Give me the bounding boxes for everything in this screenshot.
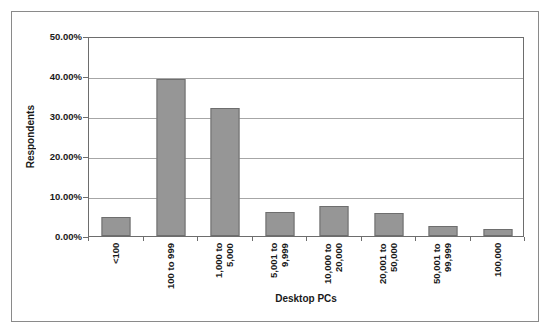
bar[interactable] bbox=[374, 213, 403, 236]
x-axis-tick-label-line: 100 to 999 bbox=[164, 243, 175, 295]
x-axis-tick-label: 20,001 to50,000 bbox=[361, 243, 416, 295]
x-axis-tick-label-line: 20,000 bbox=[333, 243, 344, 295]
x-axis-tick-label: 100,000 bbox=[470, 243, 525, 295]
bar[interactable] bbox=[265, 212, 294, 236]
x-axis-tick-label: 50,001 to99,999 bbox=[415, 243, 470, 295]
x-axis-tick-label-line: <100 bbox=[110, 243, 121, 295]
x-axis-tick-label-line: 1,000 to bbox=[213, 243, 224, 295]
bar-slot bbox=[89, 38, 144, 236]
y-axis-tick-label: 0.00% bbox=[12, 232, 82, 242]
x-axis-tickmark bbox=[470, 237, 471, 241]
y-axis-tick-label: 10.00% bbox=[12, 192, 82, 202]
y-axis-tickmark bbox=[83, 237, 88, 238]
bar-slot bbox=[471, 38, 526, 236]
plot-area bbox=[88, 37, 524, 237]
x-axis-tick-label: 10,000 to20,000 bbox=[306, 243, 361, 295]
bar-slot bbox=[253, 38, 308, 236]
x-axis-tick-label-line: 20,001 to bbox=[376, 243, 387, 295]
x-axis-tick-label-line: 10,000 to bbox=[322, 243, 333, 295]
x-axis-tick-label: <100 bbox=[88, 243, 143, 295]
x-axis-tick-label-line: 5,000 bbox=[224, 243, 235, 295]
x-axis-tick-label-line: 50,001 to bbox=[431, 243, 442, 295]
y-axis-tick-label: 50.00% bbox=[12, 32, 82, 42]
x-axis-tickmark bbox=[143, 237, 144, 241]
chart-figure: Respondents 0.00%10.00%20.00%30.00%40.00… bbox=[0, 0, 551, 334]
x-axis-tickmark bbox=[306, 237, 307, 241]
bar-slot bbox=[198, 38, 253, 236]
x-axis-tickmark bbox=[415, 237, 416, 241]
y-axis-tickmark bbox=[83, 37, 88, 38]
bar[interactable] bbox=[102, 217, 131, 236]
bar[interactable] bbox=[320, 206, 349, 236]
x-axis-tick-label: 1,000 to5,000 bbox=[197, 243, 252, 295]
bar[interactable] bbox=[483, 229, 512, 236]
y-axis-tick-label: 20.00% bbox=[12, 152, 82, 162]
bar-slot bbox=[144, 38, 199, 236]
x-axis-tick-label-line: 5,001 to bbox=[267, 243, 278, 295]
x-axis-tick-labels: <100100 to 9991,000 to5,0005,001 to9,999… bbox=[88, 243, 524, 295]
x-axis-tick-label-line: 100,000 bbox=[491, 243, 502, 295]
x-axis-tick-label-line: 50,000 bbox=[387, 243, 398, 295]
x-axis-tickmark bbox=[524, 237, 525, 241]
bar-slot bbox=[362, 38, 417, 236]
bar[interactable] bbox=[156, 79, 185, 236]
bar[interactable] bbox=[429, 226, 458, 236]
x-axis-tick-label: 100 to 999 bbox=[143, 243, 198, 295]
x-axis-tickmark bbox=[252, 237, 253, 241]
x-axis-tick-label: 5,001 to9,999 bbox=[252, 243, 307, 295]
y-axis-tickmark bbox=[83, 157, 88, 158]
x-axis-tickmarks bbox=[88, 237, 524, 242]
x-axis-tick-label-line: 99,999 bbox=[442, 243, 453, 295]
y-axis-tickmark bbox=[83, 117, 88, 118]
bar-slot bbox=[416, 38, 471, 236]
x-axis-tickmark bbox=[88, 237, 89, 241]
y-axis-tickmark bbox=[83, 197, 88, 198]
x-axis-tick-label-line: 9,999 bbox=[278, 243, 289, 295]
y-axis-tick-label: 40.00% bbox=[12, 72, 82, 82]
y-axis-tick-labels: 0.00%10.00%20.00%30.00%40.00%50.00% bbox=[8, 37, 82, 237]
x-axis-title: Desktop PCs bbox=[88, 293, 524, 304]
x-axis-tickmark bbox=[361, 237, 362, 241]
bars-layer bbox=[89, 38, 523, 236]
bar-slot bbox=[307, 38, 362, 236]
x-axis-tickmark bbox=[197, 237, 198, 241]
y-axis-tick-label: 30.00% bbox=[12, 112, 82, 122]
bar[interactable] bbox=[211, 108, 240, 236]
y-axis-tickmark bbox=[83, 77, 88, 78]
